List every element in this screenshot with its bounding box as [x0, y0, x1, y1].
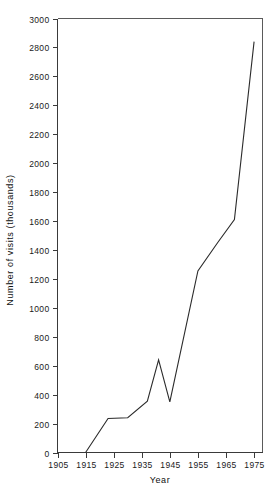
x-axis-ticks: 19051915192519351945195519651975 — [48, 453, 264, 470]
x-tick-label: 1915 — [76, 460, 96, 470]
line-chart: 0200400600800100012001400160018002000220… — [0, 0, 278, 487]
y-tick-label: 200 — [34, 420, 49, 430]
y-tick-label: 2200 — [29, 130, 49, 140]
y-tick-label: 1000 — [29, 304, 49, 314]
y-tick-label: 2800 — [29, 43, 49, 53]
x-tick-label: 1925 — [104, 460, 124, 470]
x-axis-title: Year — [150, 475, 171, 485]
y-tick-label: 1800 — [29, 188, 49, 198]
x-tick-label: 1965 — [216, 460, 236, 470]
y-tick-label: 800 — [34, 333, 49, 343]
x-tick-label: 1935 — [132, 460, 152, 470]
data-line-number-of-visits — [86, 42, 255, 453]
data-series-group — [86, 42, 255, 453]
y-tick-label: 600 — [34, 362, 49, 372]
y-tick-label: 1600 — [29, 217, 49, 227]
y-tick-label: 1400 — [29, 246, 49, 256]
y-tick-label: 400 — [34, 391, 49, 401]
y-axis-title: Number of visits (thousands) — [5, 174, 15, 305]
y-tick-label: 0 — [44, 449, 49, 459]
y-tick-label: 2000 — [29, 159, 49, 169]
y-tick-label: 2600 — [29, 72, 49, 82]
plot-frame — [58, 19, 263, 453]
x-tick-label: 1975 — [244, 460, 264, 470]
y-tick-label: 3000 — [29, 15, 49, 25]
x-tick-label: 1955 — [188, 460, 208, 470]
y-tick-label: 1200 — [29, 275, 49, 285]
x-tick-label: 1945 — [160, 460, 180, 470]
x-tick-label: 1905 — [48, 460, 68, 470]
chart-container: 0200400600800100012001400160018002000220… — [0, 0, 278, 487]
y-tick-label: 2400 — [29, 101, 49, 111]
y-axis-ticks: 0200400600800100012001400160018002000220… — [29, 15, 57, 459]
